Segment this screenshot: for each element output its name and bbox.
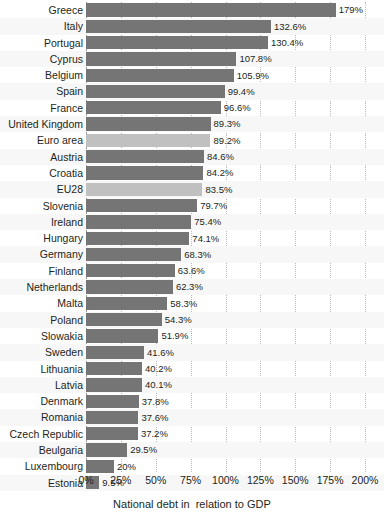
bar-value-label: 63.6% xyxy=(175,264,205,277)
bar-value-label: 20% xyxy=(114,460,136,473)
table-row: Portugal130.4% xyxy=(0,35,384,51)
bar-value-label: 96.6% xyxy=(221,101,251,114)
bar-container: 58.3% xyxy=(86,297,384,310)
category-label: United Kingdom xyxy=(8,116,86,132)
bar-value-label: 54.3% xyxy=(162,313,192,326)
bar-container: 29.5% xyxy=(86,443,384,456)
bar-value-label: 51.9% xyxy=(158,329,188,342)
bar xyxy=(86,297,167,310)
bar-value-label: 62.3% xyxy=(173,280,203,293)
bar xyxy=(86,362,142,375)
category-label: Austria xyxy=(50,149,86,165)
bar xyxy=(86,378,142,391)
table-row: Finland63.6% xyxy=(0,263,384,279)
bar xyxy=(86,411,138,424)
bar-container: 74.1% xyxy=(86,232,384,245)
bar-value-label: 37.2% xyxy=(138,427,168,440)
table-row: Ireland75.4% xyxy=(0,214,384,230)
x-tick-150: 150% xyxy=(282,474,309,486)
bar-value-label: 84.2% xyxy=(203,166,233,179)
bar-value-label: 41.6% xyxy=(144,346,174,359)
table-row: Netherlands62.3% xyxy=(0,279,384,295)
bar-container: 37.2% xyxy=(86,427,384,440)
table-row: Beulgaria29.5% xyxy=(0,442,384,458)
bar-value-label: 75.4% xyxy=(191,215,221,228)
table-row: Spain99.4% xyxy=(0,83,384,99)
bar-value-label: 89.3% xyxy=(211,117,241,130)
bar xyxy=(86,134,210,147)
category-label: Beulgaria xyxy=(39,442,86,458)
table-row: Latvia40.1% xyxy=(0,377,384,393)
bar xyxy=(86,443,127,456)
bar xyxy=(86,313,162,326)
bar xyxy=(86,199,197,212)
bar-container: 96.6% xyxy=(86,101,384,114)
bar xyxy=(86,85,225,98)
table-row: Luxembourg20% xyxy=(0,458,384,474)
bar-value-label: 37.6% xyxy=(138,411,168,424)
bar-container: 68.3% xyxy=(86,248,384,261)
bar-value-label: 132.6% xyxy=(271,20,306,33)
bar xyxy=(86,215,191,228)
table-row: United Kingdom89.3% xyxy=(0,116,384,132)
category-label: Belgium xyxy=(45,67,86,83)
bar-value-label: 58.3% xyxy=(167,297,197,310)
bar-container: 179% xyxy=(86,3,384,16)
bar xyxy=(86,460,114,473)
bar xyxy=(86,117,211,130)
category-label: Slowakia xyxy=(41,328,86,344)
category-label: Greece xyxy=(49,2,86,18)
category-label: Croatia xyxy=(49,165,86,181)
bar xyxy=(86,183,202,196)
table-row: Malta58.3% xyxy=(0,295,384,311)
bar-value-label: 99.4% xyxy=(225,85,255,98)
table-row: EU2883.5% xyxy=(0,181,384,197)
bar-value-label: 179% xyxy=(336,3,363,16)
bar-container: 83.5% xyxy=(86,183,384,196)
table-row: Cyprus107.8% xyxy=(0,51,384,67)
table-row: Hungary74.1% xyxy=(0,230,384,246)
bar xyxy=(86,36,268,49)
table-row: Poland54.3% xyxy=(0,312,384,328)
bar xyxy=(86,346,144,359)
category-label: Ireland xyxy=(51,214,86,230)
bar-value-label: 40.1% xyxy=(142,378,172,391)
table-row: Lithuania40.2% xyxy=(0,361,384,377)
bar-container: 63.6% xyxy=(86,264,384,277)
bar-value-label: 40.2% xyxy=(142,362,172,375)
category-label: Malta xyxy=(57,295,86,311)
x-tick-100: 100% xyxy=(212,474,239,486)
category-label: Netherlands xyxy=(26,279,86,295)
bar xyxy=(86,20,271,33)
table-row: Czech Republic37.2% xyxy=(0,426,384,442)
category-label: Denmark xyxy=(40,393,86,409)
category-label: Luxembourg xyxy=(25,458,86,474)
bar-value-label: 79.7% xyxy=(197,199,227,212)
table-row: Germany68.3% xyxy=(0,246,384,262)
x-axis-title: National debt in relation to GDP xyxy=(0,498,384,510)
table-row: Denmark37.8% xyxy=(0,393,384,409)
category-label: Germany xyxy=(40,246,86,262)
bar xyxy=(86,395,139,408)
bar-container: 20% xyxy=(86,460,384,473)
national-debt-bar-chart: Greece179%Italy132.6%Portugal130.4%Cypru… xyxy=(0,0,384,525)
chart-bar-rows: Greece179%Italy132.6%Portugal130.4%Cypru… xyxy=(0,2,384,491)
bar-container: 79.7% xyxy=(86,199,384,212)
bar-container: 40.1% xyxy=(86,378,384,391)
bar-value-label: 68.3% xyxy=(181,248,211,261)
bar xyxy=(86,69,234,82)
x-axis-tick-labels: 0%25%50%75%100%125%150%175%200% xyxy=(0,474,384,492)
bar-container: 37.6% xyxy=(86,411,384,424)
table-row: Greece179% xyxy=(0,2,384,18)
bar xyxy=(86,329,158,342)
category-label: Sweden xyxy=(45,344,86,360)
bar-value-label: 105.9% xyxy=(234,69,269,82)
category-label: Lithuania xyxy=(40,361,86,377)
bar xyxy=(86,3,336,16)
bar xyxy=(86,101,221,114)
bar-container: 62.3% xyxy=(86,280,384,293)
x-tick-175: 175% xyxy=(317,474,344,486)
category-label: Finland xyxy=(49,263,86,279)
category-label: France xyxy=(50,100,86,116)
category-label: Hungary xyxy=(43,230,86,246)
